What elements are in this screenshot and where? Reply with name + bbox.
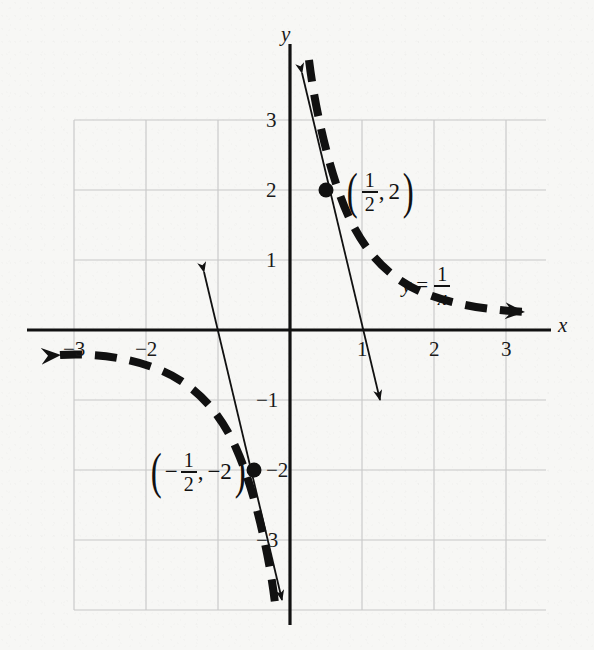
plot-canvas (0, 0, 594, 650)
x-tick-label-2: 2 (429, 337, 440, 362)
marker-point-lower (247, 463, 262, 478)
y-axis-label: y (281, 22, 290, 47)
negative-sign: − (165, 459, 178, 485)
equation-lhs: y (402, 273, 411, 298)
point-y-value: −2 (207, 459, 231, 485)
fraction-one-over-x: 1 x (434, 264, 450, 308)
open-paren-icon: ( (347, 176, 358, 207)
open-paren-icon: ( (151, 456, 162, 487)
x-tick-label-1: 1 (357, 337, 368, 362)
comma-separator: , (379, 179, 385, 205)
x-tick-label--3: −3 (63, 337, 85, 362)
y-tick-label-1: 1 (266, 248, 277, 273)
y-tick-label-2: 2 (266, 178, 277, 203)
x-axis-label: x (558, 313, 567, 338)
equals-sign: = (416, 273, 428, 298)
marker-point-upper (319, 183, 334, 198)
comma-separator: , (198, 459, 204, 485)
point-y-value: 2 (388, 179, 400, 205)
axis-lines (27, 44, 551, 625)
y-tick-label--2: −2 (266, 458, 288, 483)
x-tick-label-3: 3 (501, 337, 512, 362)
y-tick-label--3: −3 (256, 528, 278, 553)
y-tick-label--1: −1 (256, 388, 278, 413)
fraction-one-half: 1 2 (181, 450, 197, 494)
fraction-one-half: 1 2 (362, 170, 378, 214)
equation-label: y = 1 x (402, 264, 451, 308)
x-tick-label--2: −2 (135, 337, 157, 362)
tangent-line-upper (302, 73, 380, 400)
graph-figure: −3 −2 1 2 3 3 2 1 −1 −2 −3 x y ( 1 2 , 2… (0, 0, 594, 650)
point-label-lower: ( − 1 2 , −2 ) (148, 450, 249, 494)
point-label-upper: ( 1 2 , 2 ) (344, 170, 417, 214)
y-tick-label-3: 3 (266, 108, 277, 133)
close-paren-icon: ) (235, 456, 246, 487)
close-paren-icon: ) (403, 176, 414, 207)
